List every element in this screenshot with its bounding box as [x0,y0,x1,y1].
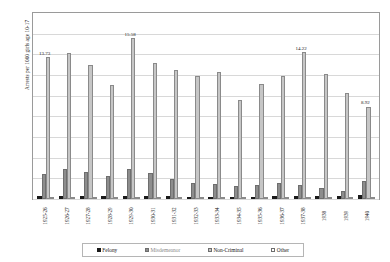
bar-noncriminal [46,57,50,199]
bar-group: 8.92 [356,13,377,199]
bar-group [334,13,355,199]
legend-label: Misdemeanor [151,247,181,253]
bar-value-label: 15.58 [124,32,135,37]
plot-area: 18.0016.0014.0012.0010.008.006.004.002.0… [32,12,380,200]
bar-group [227,13,248,199]
bar-noncriminal [302,52,306,199]
x-axis-label-cell: 1934-35 [228,202,250,238]
x-axis-label-cell: 1935-36 [249,202,271,238]
bar-other [200,197,204,199]
bar-noncriminal [366,107,370,199]
y-axis-title: Arrests per 1000 girls age 10-17 [24,0,30,130]
x-axis-label-cell: 1939 [335,202,357,238]
bar-group [56,13,77,199]
bar-groups: 13.7315.5814.228.92 [33,13,379,199]
bar-group [270,13,291,199]
bar-noncriminal [259,84,263,199]
gridline [33,199,379,200]
bar-value-label: 8.92 [361,100,370,105]
bar-other [178,197,182,199]
x-axis-label-cell: 1927-28 [77,202,99,238]
legend-item-misdemeanor[interactable]: Misdemeanor [145,247,180,253]
bar-other [135,197,139,199]
x-axis-tick-label: 1930-31 [149,207,155,224]
bar-value-label: 14.22 [295,46,306,51]
x-axis-label-cell: 1925-26 [34,202,56,238]
bar-other [50,197,54,199]
x-axis-label-cell: 1926-27 [56,202,78,238]
x-axis-tick-label: 1932-33 [192,207,198,224]
x-axis-label-cell: 1937-38 [292,202,314,238]
x-axis-labels: 1925-261926-271927-281928-291929-301930-… [32,202,380,238]
x-axis-tick-label: 1935-36 [257,207,263,224]
bar-group [78,13,99,199]
bar-group: 15.58 [121,13,142,199]
bar-group [313,13,334,199]
bar-other [93,197,97,199]
legend-swatch-icon [208,248,212,252]
x-axis-label-cell: 1932-33 [185,202,207,238]
bar-group [163,13,184,199]
legend-swatch-icon [145,248,149,252]
bar-other [242,197,246,199]
bar-chart: Arrests per 1000 girls age 10-17 18.0016… [0,0,390,262]
bar-other [371,197,375,199]
bar-noncriminal [153,63,157,199]
x-axis-tick-label: 1929-30 [128,207,134,224]
legend-label: Other [277,247,289,253]
bar-noncriminal [195,76,199,199]
x-axis-label-cell: 1928-29 [99,202,121,238]
bar-noncriminal [67,53,71,199]
x-axis-tick-label: 1937-38 [300,207,306,224]
bar-group: 13.73 [35,13,56,199]
bar-noncriminal [174,70,178,199]
bar-noncriminal [88,65,92,199]
x-axis-label-cell: 1929-30 [120,202,142,238]
bar-other [328,197,332,199]
bar-other [71,197,75,199]
legend-item-other[interactable]: Other [271,247,289,253]
x-axis-tick-label: 1925-26 [42,207,48,224]
bar-group [249,13,270,199]
chart-legend: FelonyMisdemeanorNon-CriminalOther [82,243,304,257]
x-axis-tick-label: 1927-28 [85,207,91,224]
bar-other [285,197,289,199]
x-axis-label-cell: 1938 [314,202,336,238]
bar-other [306,197,310,199]
bar-other [221,197,225,199]
bar-value-label: 13.73 [39,51,50,56]
bar-other [157,197,161,199]
legend-item-felony[interactable]: Felony [97,247,117,253]
x-axis-tick-label: 1940 [364,211,370,221]
bar-group [99,13,120,199]
legend-item-noncriminal[interactable]: Non-Criminal [208,247,244,253]
legend-label: Non-Criminal [213,247,243,253]
legend-swatch-icon [97,248,101,252]
bar-other [349,197,353,199]
legend-label: Felony [102,247,117,253]
bar-other [114,197,118,199]
bar-group [206,13,227,199]
bar-noncriminal [238,100,242,199]
bar-group [142,13,163,199]
x-axis-label-cell: 1940 [357,202,379,238]
bar-noncriminal [110,85,114,199]
x-axis-label-cell: 1931-32 [163,202,185,238]
bar-noncriminal [217,72,221,199]
bar-group: 14.22 [292,13,313,199]
bar-noncriminal [324,74,328,199]
bar-noncriminal [281,76,285,199]
x-axis-label-cell: 1936-37 [271,202,293,238]
bar-other [264,197,268,199]
x-axis-tick-label: 1926-27 [63,207,69,224]
x-axis-label-cell: 1930-31 [142,202,164,238]
bar-group [185,13,206,199]
bar-noncriminal [345,93,349,199]
x-axis-tick-label: 1936-37 [278,207,284,224]
x-axis-tick-label: 1939 [343,211,349,221]
x-axis-tick-label: 1931-32 [171,207,177,224]
bar-noncriminal [131,38,135,199]
x-axis-tick-label: 1934-35 [235,207,241,224]
x-axis-tick-label: 1933-34 [214,207,220,224]
x-axis-tick-label: 1938 [321,211,327,221]
